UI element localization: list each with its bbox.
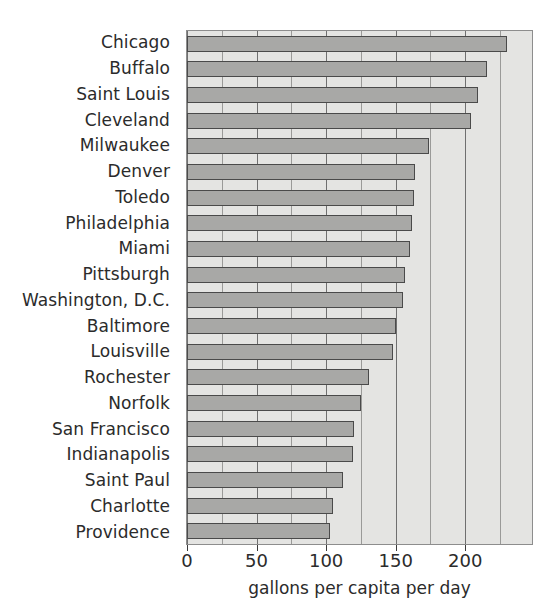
category-label: Chicago <box>0 30 178 56</box>
bar <box>187 36 507 52</box>
bar-row <box>187 211 532 237</box>
category-label: Toledo <box>0 185 178 211</box>
bar <box>187 344 393 360</box>
bar-row <box>187 416 532 442</box>
bar <box>187 292 403 308</box>
x-axis-tick-labels: 050100150200 <box>186 550 533 576</box>
bar <box>187 241 410 257</box>
bar <box>187 318 396 334</box>
bar <box>187 523 330 539</box>
bar <box>187 61 487 77</box>
bar-row <box>187 108 532 134</box>
x-axis-title: gallons per capita per day <box>186 578 533 598</box>
bar <box>187 421 354 437</box>
bar-chart: ChicagoBuffaloSaint LouisClevelandMilwau… <box>0 0 549 611</box>
category-label: Pittsburgh <box>0 262 178 288</box>
bar-row <box>187 236 532 262</box>
bar-row <box>187 134 532 160</box>
x-tick-label: 50 <box>245 550 268 571</box>
bar <box>187 498 333 514</box>
x-tick-label: 200 <box>448 550 482 571</box>
category-label: Providence <box>0 519 178 545</box>
category-label: Baltimore <box>0 313 178 339</box>
bar <box>187 369 369 385</box>
category-label: Saint Paul <box>0 468 178 494</box>
bar-row <box>187 185 532 211</box>
category-label: Milwaukee <box>0 133 178 159</box>
category-label: Rochester <box>0 365 178 391</box>
bar-row <box>187 339 532 365</box>
category-label: Cleveland <box>0 107 178 133</box>
bar-row <box>187 442 532 468</box>
bar-row <box>187 390 532 416</box>
bar <box>187 267 405 283</box>
bar-row <box>187 313 532 339</box>
category-label: Buffalo <box>0 56 178 82</box>
bar <box>187 190 414 206</box>
category-axis-labels: ChicagoBuffaloSaint LouisClevelandMilwau… <box>0 30 178 545</box>
category-label: San Francisco <box>0 416 178 442</box>
x-tick-label: 150 <box>378 550 412 571</box>
bar <box>187 472 343 488</box>
bar-row <box>187 159 532 185</box>
category-label: Denver <box>0 159 178 185</box>
bar-row <box>187 493 532 519</box>
category-label: Washington, D.C. <box>0 288 178 314</box>
bar-row <box>187 262 532 288</box>
bar-row <box>187 518 532 544</box>
bar <box>187 138 429 154</box>
bar <box>187 164 415 180</box>
bar-row <box>187 57 532 83</box>
bar <box>187 87 478 103</box>
bar-row <box>187 288 532 314</box>
category-label: Philadelphia <box>0 210 178 236</box>
bar-row <box>187 365 532 391</box>
bar-row <box>187 467 532 493</box>
category-label: Miami <box>0 236 178 262</box>
bar <box>187 113 471 129</box>
bar <box>187 446 353 462</box>
bar-row <box>187 31 532 57</box>
category-label: Indianapolis <box>0 442 178 468</box>
bar <box>187 215 412 231</box>
plot-area <box>186 30 533 545</box>
x-tick-label: 100 <box>309 550 343 571</box>
bar-row <box>187 82 532 108</box>
category-label: Norfolk <box>0 391 178 417</box>
category-label: Louisville <box>0 339 178 365</box>
category-label: Saint Louis <box>0 82 178 108</box>
x-tick-label: 0 <box>181 550 192 571</box>
bar <box>187 395 361 411</box>
bar-series <box>187 31 532 544</box>
category-label: Charlotte <box>0 494 178 520</box>
